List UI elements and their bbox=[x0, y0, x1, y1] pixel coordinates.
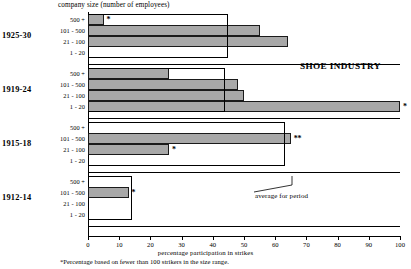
average-for-period-box bbox=[88, 122, 285, 166]
group-separator bbox=[88, 172, 400, 173]
category-label: 500 + bbox=[70, 124, 85, 131]
category-label: 500 + bbox=[70, 16, 85, 23]
category-label: 21 - 100 bbox=[63, 146, 85, 153]
x-tick bbox=[369, 236, 370, 240]
category-label: 500 + bbox=[70, 70, 85, 77]
category-label: 1 - 20 bbox=[70, 157, 85, 164]
category-label: 101 - 500 bbox=[60, 135, 85, 142]
x-tick bbox=[213, 236, 214, 240]
bar-row: 500 + bbox=[88, 176, 400, 187]
x-tick-label: 0 bbox=[76, 241, 100, 248]
x-tick-label: 40 bbox=[201, 241, 225, 248]
bar-note-asterisk: * bbox=[403, 102, 407, 111]
category-label: 101 - 500 bbox=[60, 27, 85, 34]
period-label: 1919-24 bbox=[2, 85, 31, 94]
x-tick-label: 50 bbox=[232, 241, 256, 248]
bar-note-asterisk: * bbox=[107, 15, 111, 24]
x-tick bbox=[400, 236, 401, 240]
category-label: 101 - 500 bbox=[60, 189, 85, 196]
bar-note-asterisk: ** bbox=[294, 134, 301, 143]
x-tick bbox=[88, 236, 89, 240]
x-tick-label: 30 bbox=[170, 241, 194, 248]
x-tick-label: 20 bbox=[138, 241, 162, 248]
period-label: 1925-30 bbox=[2, 31, 31, 40]
y-axis-title: company size (number of employees) bbox=[58, 1, 170, 9]
x-tick bbox=[275, 236, 276, 240]
category-label: 21 - 100 bbox=[63, 92, 85, 99]
x-tick bbox=[306, 236, 307, 240]
x-tick-label: 60 bbox=[263, 241, 287, 248]
group-separator bbox=[88, 226, 400, 227]
shoe-industry-chart: company size (number of employees) SHOE … bbox=[0, 0, 411, 269]
average-for-period-label: average for period bbox=[255, 192, 308, 200]
average-for-period-box bbox=[88, 176, 132, 220]
group-separator bbox=[88, 118, 400, 119]
plot-area: 1925-30500 +*101 - 50021 - 1001 - 201919… bbox=[88, 12, 400, 236]
category-label: 500 + bbox=[70, 178, 85, 185]
period-label: 1912-14 bbox=[2, 193, 31, 202]
group-separator bbox=[88, 64, 400, 65]
x-tick-label: 70 bbox=[294, 241, 318, 248]
bar-row: 101 - 500* bbox=[88, 187, 400, 198]
category-label: 1 - 20 bbox=[70, 211, 85, 218]
x-tick bbox=[244, 236, 245, 240]
category-label: 21 - 100 bbox=[63, 38, 85, 45]
x-axis-title: percentage participation in strikes bbox=[0, 249, 411, 256]
x-tick-label: 90 bbox=[357, 241, 381, 248]
x-tick bbox=[150, 236, 151, 240]
bar-note-asterisk: * bbox=[172, 145, 176, 154]
bar-note-asterisk: * bbox=[132, 188, 136, 197]
x-tick-label: 10 bbox=[107, 241, 131, 248]
category-label: 21 - 100 bbox=[63, 200, 85, 207]
x-tick bbox=[119, 236, 120, 240]
x-tick bbox=[338, 236, 339, 240]
category-label: 101 - 500 bbox=[60, 81, 85, 88]
bar-row: 1 - 20 bbox=[88, 209, 400, 220]
x-tick bbox=[182, 236, 183, 240]
footnote: *Percentage based on fewer than 100 stri… bbox=[60, 258, 229, 265]
bar-row: 21 - 100 bbox=[88, 198, 400, 209]
x-tick-label: 100 bbox=[388, 241, 411, 248]
category-label: 1 - 20 bbox=[70, 49, 85, 56]
average-for-period-box bbox=[88, 68, 225, 112]
x-tick-label: 80 bbox=[326, 241, 350, 248]
category-label: 1 - 20 bbox=[70, 103, 85, 110]
period-label: 1915-18 bbox=[2, 139, 31, 148]
